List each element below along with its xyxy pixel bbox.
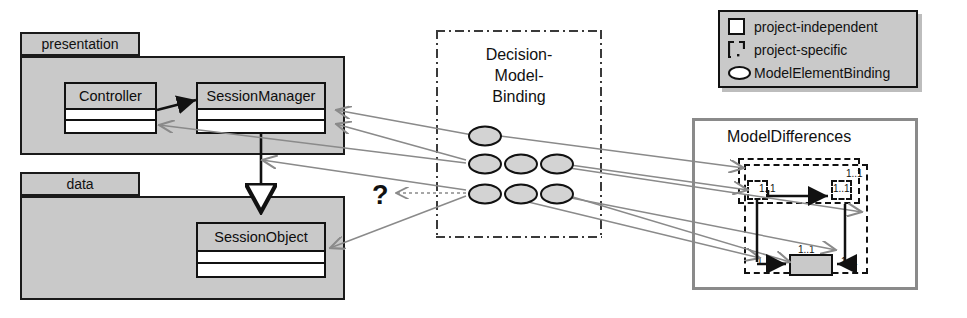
legend-item-model-element-binding: ModelElementBinding <box>720 61 916 84</box>
class-name-sessionobject: SessionObject <box>198 224 324 252</box>
ellipse-icon <box>728 66 751 80</box>
diagram-canvas: presentation Controller SessionManager d… <box>0 0 967 318</box>
dmb-title-line-3: Binding <box>436 86 602 107</box>
class-name-sessionmanager: SessionManager <box>198 84 324 110</box>
multiplicity-5: 1..1 <box>757 256 774 267</box>
legend-box: project-independent project-specific Mod… <box>718 10 918 88</box>
dmb-title-line-1: Decision- <box>436 44 602 65</box>
class-attributes-sessionobject <box>198 252 324 264</box>
legend-item-project-independent: project-independent <box>720 15 916 38</box>
multiplicity-4: 1..1 <box>798 244 815 255</box>
class-operations-controller <box>66 121 155 132</box>
legend-item-project-specific: project-specific <box>720 38 916 61</box>
legend-label-model-element-binding: ModelElementBinding <box>754 65 890 81</box>
square-icon <box>728 18 745 35</box>
dashed-bracket-icon <box>728 41 745 58</box>
class-attributes-controller <box>66 110 155 121</box>
class-sessionobject[interactable]: SessionObject <box>196 222 326 278</box>
legend-label-project-independent: project-independent <box>754 19 878 35</box>
md-element-solid-filled <box>789 254 833 276</box>
multiplicity-3: 1..1 <box>759 183 776 194</box>
model-differences-title: ModelDifferences <box>727 128 851 146</box>
package-label-presentation: presentation <box>41 36 118 52</box>
decision-model-binding-frame: Decision- Model- Binding <box>436 30 602 238</box>
package-tab-data: data <box>20 172 140 196</box>
class-operations-sessionmanager <box>198 121 324 132</box>
legend-label-project-specific: project-specific <box>754 42 847 58</box>
multiplicity-6: 1..1 <box>841 256 858 267</box>
unknown-question-mark: ? <box>372 182 389 209</box>
class-operations-sessionobject <box>198 264 324 276</box>
class-attributes-sessionmanager <box>198 110 324 121</box>
multiplicity-1: 1..1 <box>846 168 863 179</box>
class-sessionmanager[interactable]: SessionManager <box>196 82 326 134</box>
multiplicity-2: 1..1 <box>833 183 850 194</box>
class-controller[interactable]: Controller <box>64 82 157 134</box>
package-tab-presentation: presentation <box>20 32 140 56</box>
package-label-data: data <box>66 176 93 192</box>
class-name-controller: Controller <box>66 84 155 110</box>
dmb-title-line-2: Model- <box>436 65 602 86</box>
